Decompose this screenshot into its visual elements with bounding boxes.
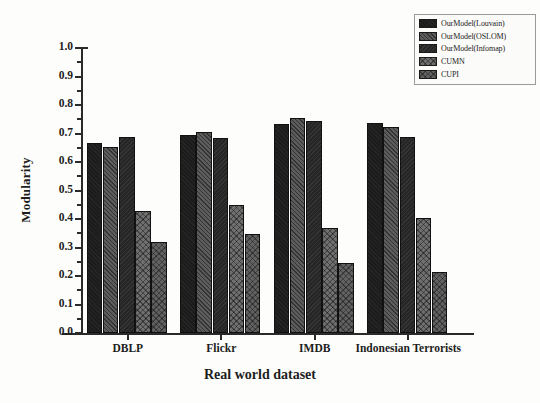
y-tick-label: 0.7 — [59, 126, 73, 138]
y-tick-mark — [75, 47, 81, 49]
bar-imdb-ourmodel-oslom — [290, 118, 306, 333]
y-axis-title-text: Modularity — [18, 120, 34, 260]
bar-dblp-ourmodel-infomap — [119, 137, 135, 333]
bar-indonesian-terrorists-cumn — [416, 218, 432, 333]
legend-swatch-icon — [419, 19, 437, 28]
legend-item[interactable]: OurModel(Louvain) — [419, 18, 532, 30]
chart-legend: OurModel(Louvain)OurModel(OSLOM)OurModel… — [414, 14, 536, 85]
bar-imdb-cumn — [322, 228, 338, 333]
y-minor-tick-mark — [77, 289, 81, 291]
bar-flickr-ourmodel-louvain — [180, 135, 196, 333]
x-axis-tick — [127, 333, 129, 340]
y-tick-mark — [75, 332, 81, 334]
x-axis-tick — [407, 333, 409, 340]
y-minor-tick-mark — [77, 318, 81, 320]
legend-swatch-icon — [419, 70, 437, 79]
x-axis-tick — [220, 333, 222, 340]
x-axis-spine — [62, 333, 474, 335]
bar-dblp-ourmodel-oslom — [103, 147, 119, 333]
y-tick-label: 0.9 — [59, 69, 73, 81]
legend-item[interactable]: OurModel(OSLOM) — [419, 31, 532, 43]
bar-indonesian-terrorists-ourmodel-oslom — [383, 127, 399, 333]
y-tick-label: 0.5 — [59, 183, 73, 195]
y-tick-label: 0.4 — [59, 211, 73, 223]
plot-area: 0.00.10.20.30.40.50.60.70.80.91.0 — [82, 48, 456, 333]
legend-label: OurModel(Infomap) — [441, 44, 505, 53]
y-tick-mark — [75, 104, 81, 106]
x-axis-tick — [314, 333, 316, 340]
chart-figure: Modularity 0.00.10.20.30.40.50.60.70.80.… — [0, 0, 540, 403]
y-minor-tick-mark — [77, 232, 81, 234]
y-tick-label: 1.0 — [59, 40, 73, 52]
y-tick-mark — [75, 275, 81, 277]
y-minor-tick-mark — [77, 90, 81, 92]
y-minor-tick-mark — [77, 61, 81, 63]
x-category-label: DBLP — [112, 342, 143, 354]
y-tick-label: 0.2 — [59, 268, 73, 280]
y-minor-tick-mark — [77, 147, 81, 149]
bar-flickr-ourmodel-infomap — [213, 138, 229, 333]
y-axis-title: Modularity — [18, 0, 34, 120]
legend-item[interactable]: CUMN — [419, 56, 532, 68]
y-tick-mark — [75, 190, 81, 192]
y-tick-label: 0.8 — [59, 97, 73, 109]
legend-swatch-icon — [419, 44, 437, 53]
y-tick-mark — [75, 133, 81, 135]
bar-indonesian-terrorists-ourmodel-louvain — [367, 123, 383, 333]
bar-imdb-cupi — [338, 263, 354, 333]
bar-flickr-cumn — [229, 205, 245, 333]
x-category-label: Flickr — [206, 342, 236, 354]
y-minor-tick-mark — [77, 261, 81, 263]
legend-label: OurModel(OSLOM) — [441, 32, 506, 41]
bar-dblp-cumn — [135, 211, 151, 333]
bar-indonesian-terrorists-cupi — [432, 272, 448, 333]
legend-label: CUMN — [441, 57, 465, 66]
legend-label: OurModel(Louvain) — [441, 19, 505, 28]
bar-flickr-ourmodel-oslom — [196, 132, 212, 333]
y-tick-label: 0.6 — [59, 154, 73, 166]
legend-swatch-icon — [419, 32, 437, 41]
y-tick-mark — [75, 161, 81, 163]
y-minor-tick-mark — [77, 118, 81, 120]
y-tick-label: 0.1 — [59, 297, 73, 309]
legend-item[interactable]: CUPI — [419, 68, 532, 80]
bar-imdb-ourmodel-louvain — [274, 124, 290, 333]
y-tick-label: 0.0 — [59, 325, 73, 337]
x-category-label: IMDB — [299, 342, 330, 354]
y-tick-mark — [75, 76, 81, 78]
bar-imdb-ourmodel-infomap — [306, 121, 322, 333]
bar-dblp-ourmodel-louvain — [87, 143, 103, 333]
y-minor-tick-mark — [77, 204, 81, 206]
legend-label: CUPI — [441, 70, 459, 79]
y-tick-mark — [75, 304, 81, 306]
legend-swatch-icon — [419, 57, 437, 66]
x-category-label: Indonesian Terrorists — [355, 342, 461, 354]
y-tick-label: 0.3 — [59, 240, 73, 252]
x-axis-title: Real world dataset — [60, 367, 460, 383]
legend-item[interactable]: OurModel(Infomap) — [419, 43, 532, 55]
y-tick-mark — [75, 247, 81, 249]
y-tick-mark — [75, 218, 81, 220]
bar-indonesian-terrorists-ourmodel-infomap — [400, 137, 416, 333]
bar-flickr-cupi — [245, 234, 261, 333]
bar-dblp-cupi — [151, 242, 167, 333]
y-minor-tick-mark — [77, 175, 81, 177]
